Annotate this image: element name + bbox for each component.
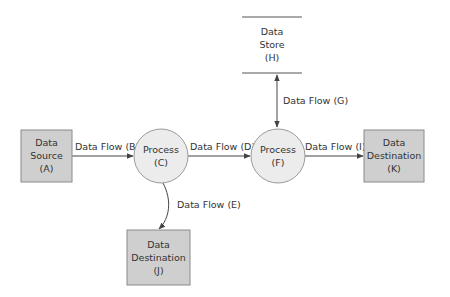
node-c-circle bbox=[134, 129, 188, 183]
node-data-source-a: Data Source (A) bbox=[21, 130, 72, 182]
node-c-line-1: Process bbox=[143, 144, 179, 155]
node-j-line-1: Data bbox=[147, 239, 170, 250]
edge-g: Data Flow (G) bbox=[277, 75, 348, 127]
edge-b-label: Data Flow (B) bbox=[75, 141, 139, 152]
node-data-store-h: Data Store (H) bbox=[242, 17, 302, 73]
edge-e-label: Data Flow (E) bbox=[177, 199, 241, 210]
node-h-line-2: Store bbox=[259, 39, 284, 50]
node-a-line-1: Data bbox=[35, 137, 58, 148]
node-k-line-1: Data bbox=[383, 137, 406, 148]
node-data-destination-k: Data Destination (K) bbox=[364, 130, 424, 182]
node-f-line-1: Process bbox=[260, 144, 296, 155]
node-process-c: Process (C) bbox=[134, 129, 188, 183]
node-a-line-2: Source bbox=[30, 150, 63, 161]
node-k-line-2: Destination bbox=[367, 150, 422, 161]
node-h-line-1: Data bbox=[261, 26, 284, 37]
edge-d: Data Flow (D) bbox=[188, 141, 255, 156]
edge-b: Data Flow (B) bbox=[72, 141, 139, 156]
edge-e: Data Flow (E) bbox=[159, 183, 241, 229]
edge-e-line bbox=[159, 183, 169, 229]
node-c-line-2: (C) bbox=[154, 157, 168, 168]
edge-i: Data Flow (I) bbox=[305, 141, 366, 156]
node-f-circle bbox=[251, 129, 305, 183]
data-flow-diagram: Data Flow (B) Data Flow (D) Data Flow (I… bbox=[0, 0, 450, 297]
node-data-destination-j: Data Destination (J) bbox=[127, 230, 190, 285]
node-k-line-3: (K) bbox=[387, 163, 401, 174]
node-j-line-3: (J) bbox=[153, 265, 163, 276]
node-a-line-3: (A) bbox=[40, 163, 54, 174]
node-j-line-2: Destination bbox=[131, 252, 186, 263]
node-process-f: Process (F) bbox=[251, 129, 305, 183]
edge-d-label: Data Flow (D) bbox=[190, 141, 255, 152]
edge-i-label: Data Flow (I) bbox=[305, 141, 366, 152]
node-h-line-3: (H) bbox=[265, 52, 280, 63]
edge-g-label: Data Flow (G) bbox=[283, 95, 348, 106]
node-f-line-2: (F) bbox=[272, 157, 285, 168]
